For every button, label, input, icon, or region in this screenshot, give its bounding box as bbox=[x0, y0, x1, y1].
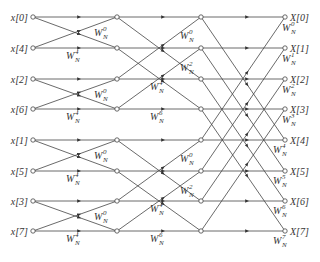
svg-text:N: N bbox=[290, 28, 296, 36]
svg-text:0: 0 bbox=[291, 20, 295, 28]
stage1-node bbox=[115, 199, 119, 203]
svg-text:4: 4 bbox=[75, 48, 79, 56]
input-node bbox=[31, 229, 35, 233]
stage3-twiddle: W0N bbox=[282, 20, 296, 36]
stage1-node bbox=[115, 138, 119, 142]
input-node bbox=[31, 77, 35, 81]
svg-text:N: N bbox=[281, 211, 287, 219]
input-label: x[5] bbox=[10, 166, 28, 177]
stage1-node bbox=[115, 46, 119, 50]
svg-text:N: N bbox=[281, 181, 287, 189]
svg-text:N: N bbox=[102, 33, 108, 41]
stage1-twiddle: W0N bbox=[94, 209, 108, 225]
svg-text:4: 4 bbox=[282, 142, 286, 150]
stage2-node bbox=[199, 107, 203, 111]
svg-text:N: N bbox=[102, 156, 108, 164]
stage2-twiddle: W6N bbox=[150, 231, 164, 247]
svg-text:6: 6 bbox=[159, 109, 163, 117]
stage2-twiddle: W4N bbox=[150, 79, 164, 95]
svg-text:3: 3 bbox=[290, 112, 295, 120]
input-label: x[0] bbox=[10, 12, 28, 23]
stage1-node bbox=[115, 229, 119, 233]
stage1-twiddle: W0N bbox=[94, 87, 108, 103]
svg-text:0: 0 bbox=[103, 25, 107, 33]
stage1-node bbox=[115, 107, 119, 111]
input-node bbox=[31, 138, 35, 142]
svg-text:N: N bbox=[102, 95, 108, 103]
svg-text:0: 0 bbox=[189, 151, 193, 159]
svg-text:1: 1 bbox=[291, 51, 295, 59]
svg-text:5: 5 bbox=[282, 173, 286, 181]
input-node bbox=[31, 199, 35, 203]
stage2-twiddle: W0N bbox=[180, 151, 194, 167]
stage1-twiddle: W0N bbox=[94, 148, 108, 164]
svg-text:6: 6 bbox=[159, 231, 163, 239]
svg-text:0: 0 bbox=[103, 209, 107, 217]
stage2-twiddle: W4N bbox=[150, 201, 164, 217]
stage2-node bbox=[199, 138, 203, 142]
input-node bbox=[31, 46, 35, 50]
svg-text:N: N bbox=[290, 59, 296, 67]
stage2-twiddle: W6N bbox=[150, 109, 164, 125]
svg-text:4: 4 bbox=[159, 201, 163, 209]
stage1-twiddle: W0N bbox=[94, 25, 108, 41]
svg-text:N: N bbox=[158, 117, 164, 125]
svg-text:N: N bbox=[290, 90, 296, 98]
svg-text:0: 0 bbox=[189, 28, 193, 36]
stage2-node bbox=[199, 46, 203, 50]
svg-text:4: 4 bbox=[159, 79, 163, 87]
stage2-twiddle: W2N bbox=[180, 60, 194, 76]
stage2-twiddle: W2N bbox=[180, 183, 194, 199]
stage2-node bbox=[199, 229, 203, 233]
fft-butterfly-diagram: x[0]x[4]x[2]x[6]x[1]x[5]x[3]x[7]X[0]X[1]… bbox=[0, 0, 320, 262]
stage2-twiddle: W0N bbox=[180, 28, 194, 44]
stage2-node bbox=[199, 77, 203, 81]
svg-text:N: N bbox=[188, 36, 194, 44]
svg-text:N: N bbox=[290, 120, 296, 128]
svg-text:2: 2 bbox=[291, 82, 295, 90]
svg-text:6: 6 bbox=[282, 203, 286, 211]
svg-text:N: N bbox=[158, 87, 164, 95]
stage1-node bbox=[115, 77, 119, 81]
output-node bbox=[283, 15, 287, 19]
input-label: x[1] bbox=[10, 135, 28, 146]
svg-text:N: N bbox=[158, 239, 164, 247]
stage1-twiddle: W4N bbox=[66, 231, 80, 247]
svg-text:7: 7 bbox=[282, 233, 286, 241]
svg-text:N: N bbox=[281, 150, 287, 158]
stage2-node bbox=[199, 169, 203, 173]
stage2-node bbox=[199, 15, 203, 19]
input-label: x[4] bbox=[10, 43, 28, 54]
svg-text:N: N bbox=[158, 209, 164, 217]
svg-text:N: N bbox=[281, 241, 287, 249]
svg-text:4: 4 bbox=[75, 231, 79, 239]
input-node bbox=[31, 15, 35, 19]
output-node bbox=[283, 107, 287, 111]
input-label: x[7] bbox=[10, 226, 28, 237]
svg-text:N: N bbox=[74, 56, 80, 64]
svg-text:0: 0 bbox=[103, 148, 107, 156]
svg-text:4: 4 bbox=[75, 109, 79, 117]
output-label: X[4] bbox=[289, 135, 309, 146]
svg-text:N: N bbox=[188, 159, 194, 167]
svg-text:2: 2 bbox=[189, 60, 193, 68]
svg-text:N: N bbox=[188, 191, 194, 199]
svg-text:4: 4 bbox=[75, 171, 79, 179]
stage2-node bbox=[199, 199, 203, 203]
stage3-twiddle: W4N bbox=[273, 142, 287, 158]
output-label: X[6] bbox=[289, 196, 309, 207]
output-label: X[5] bbox=[289, 166, 309, 177]
svg-text:N: N bbox=[74, 179, 80, 187]
input-node bbox=[31, 169, 35, 173]
output-node bbox=[283, 46, 287, 50]
svg-text:N: N bbox=[74, 239, 80, 247]
stage3-twiddle: W1N bbox=[282, 51, 296, 67]
input-label: x[2] bbox=[10, 74, 28, 85]
stage1-twiddle: W4N bbox=[66, 48, 80, 64]
svg-text:N: N bbox=[188, 68, 194, 76]
svg-text:N: N bbox=[102, 217, 108, 225]
output-label: X[7] bbox=[289, 226, 309, 237]
stage1-twiddle: W4N bbox=[66, 109, 80, 125]
stage3-twiddle: W2N bbox=[282, 82, 296, 98]
input-label: x[3] bbox=[10, 196, 28, 207]
